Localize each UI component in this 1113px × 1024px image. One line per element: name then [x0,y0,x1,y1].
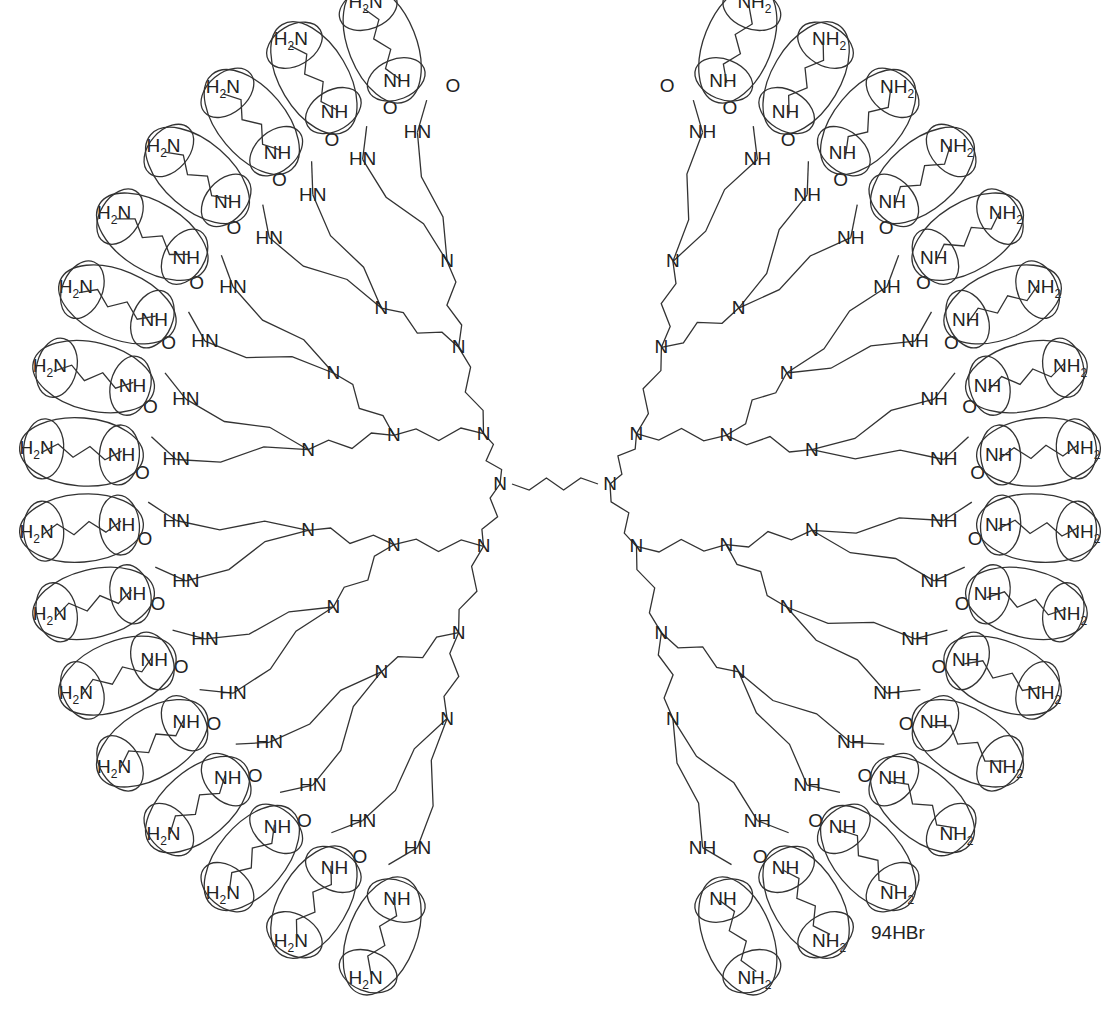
carbonyl-oxygen: O [161,332,176,353]
terminal-group [253,7,375,148]
amide-nitrogen: HN [299,774,326,795]
terminal-secondary-amine: NH [173,247,200,268]
carbonyl-oxygen: O [781,129,796,150]
atom-label-layer: NNNNNNNNNNNNNNNNNNNNNNNNNNNNNNHNONHH2NHN… [20,0,1101,992]
terminal-primary-amine: H2N [348,0,382,16]
alkyl-chain [333,545,393,607]
alkyl-chain [269,238,381,309]
carbonyl-oxygen: O [325,129,340,150]
terminal-primary-amine: NH2 [939,135,973,160]
branch-nitrogen: N [327,362,341,383]
alkyl-chain [661,261,676,347]
branch-nitrogen: N [440,708,454,729]
amide-nitrogen: NH [744,148,771,169]
branch-nitrogen: N [732,297,746,318]
terminal-secondary-amine: NH [920,247,947,268]
amide-nitrogen: NH [873,682,900,703]
amide-nitrogen: NH [837,731,864,752]
alkyl-chain [205,341,333,373]
butyl-chain [115,210,189,262]
alkyl-chain [381,633,458,672]
alkyl-chain [787,607,915,639]
terminal-group [82,682,223,805]
branch-nitrogen: N [327,596,341,617]
branch-nitrogen: N [630,423,644,444]
alkyl-chain [673,159,758,261]
branch-nitrogen: N [477,535,491,556]
terminal-secondary-amine: NH [879,191,906,212]
terminal-secondary-amine: NH [985,444,1012,465]
alkyl-chain [333,373,393,435]
amide-nitrogen: NH [901,628,928,649]
amide-nitrogen: HN [299,184,326,205]
alkyl-chain [739,672,808,785]
alkyl-chain [812,518,944,533]
terminal-secondary-amine: NH [214,767,241,788]
carbonyl-oxygen: O [352,846,367,867]
terminal-primary-amine: H2N [59,276,93,301]
terminal-secondary-amine: NH [709,888,736,909]
amide-nitrogen: NH [901,330,928,351]
dendrimer-structure: NNNNNNNNNNNNNNNNNNNNNNNNNNNNNNHNONHH2NHN… [0,0,1113,1024]
counterion-label: 94HBr [871,922,925,944]
alkyl-chain [459,347,484,433]
terminal-secondary-amine: NH [108,514,135,535]
alkyl-chain [417,132,447,261]
terminal-secondary-amine: NH [879,767,906,788]
terminal-secondary-amine: NH [772,101,799,122]
terminal-primary-amine: NH2 [1027,276,1061,301]
terminal-group [802,53,934,192]
amide-nitrogen: NH [930,448,957,469]
amide-nitrogen: HN [219,682,246,703]
amide-nitrogen: HN [404,121,431,142]
amide-nitrogen: HN [172,570,199,591]
branch-nitrogen: N [374,661,388,682]
core-nitrogen-right: N [603,473,617,494]
alkyl-chain [447,261,462,347]
alkyl-chain [417,719,447,848]
alkyl-chain [739,238,851,309]
terminal-secondary-amine: NH [264,142,291,163]
alkyl-chain [186,399,308,450]
terminal-secondary-amine: NH [141,309,168,330]
amide-nitrogen: HN [349,810,376,831]
alkyl-chain [812,450,944,460]
terminal-secondary-amine: NH [709,70,736,91]
terminal-secondary-amine: NH [321,101,348,122]
alkyl-chain [661,308,738,347]
alkyl-chain [176,447,308,462]
alkyl-chain [726,373,786,435]
butyl-chain [888,774,956,836]
terminal-group [932,620,1073,731]
alkyl-chain [363,719,448,821]
terminal-secondary-amine: NH [383,70,410,91]
amide-nitrogen: HN [256,731,283,752]
branch-nitrogen: N [805,439,819,460]
alkyl-chain [787,287,887,373]
branch-nitrogen: N [719,424,733,445]
amide-nitrogen: HN [162,448,189,469]
terminal-secondary-amine: NH [920,711,947,732]
alkyl-chain [812,530,934,581]
terminal-primary-amine: NH2 [737,0,771,16]
alkyl-chain [726,435,812,452]
branch-nitrogen: N [440,250,454,271]
core-nitrogen-left: N [493,473,507,494]
alkyl-chain [459,546,484,632]
terminal-secondary-amine: NH [214,191,241,212]
terminal-group [683,0,792,114]
amide-nitrogen: NH [744,810,771,831]
amide-nitrogen: HN [172,388,199,409]
alkyl-chain [673,132,703,261]
alkyl-chain [739,672,851,743]
branch-nitrogen: N [666,250,680,271]
terminal-secondary-amine: NH [321,857,348,878]
branch-nitrogen: N [630,535,644,556]
branch-nitrogen: N [654,622,668,643]
terminal-secondary-amine: NH [829,142,856,163]
carbonyl-oxygen: O [151,593,166,614]
amide-nitrogen: NH [689,121,716,142]
terminal-group [128,738,266,871]
terminal-primary-amine: NH2 [1027,682,1061,707]
alkyl-chain [512,478,598,490]
